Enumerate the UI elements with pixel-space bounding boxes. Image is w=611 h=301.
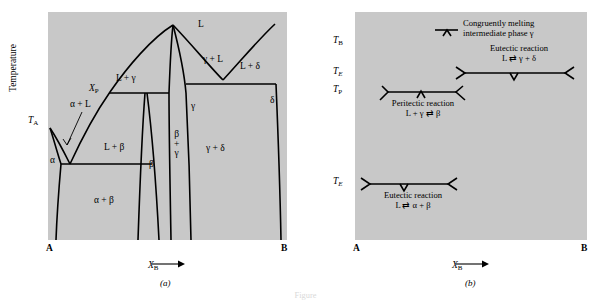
panel-b-temp-mark-TE-upper: TE (333, 67, 343, 78)
panel-a-x-axis-label: XB (148, 260, 158, 272)
panel-b-temp-mark-TP: TP (333, 85, 342, 96)
phase-label-alpha-L: α + L (70, 100, 91, 110)
beta-boundary-left (138, 93, 145, 240)
panel-a-comp-mark-XP: XP (89, 84, 99, 95)
panel-b-corner-B: B (581, 243, 587, 253)
delta-solvus (276, 84, 281, 240)
gamma-boundary-left (169, 93, 171, 240)
phase-label-gamma-delta: γ + δ (206, 144, 225, 154)
figure-caption-clipped: Figure (0, 291, 611, 301)
annotation-peritectic: Peritectic reaction L + γ ⇄ β (371, 98, 475, 119)
eutectic-lower-bracket-right (448, 178, 457, 190)
phase-diagram-panel-a: TA XP L α + L α α + β L + β β β+γ L + γ … (48, 12, 287, 240)
reaction-schematic-panel-b: TB TE TP TE Congruently melting intermed… (355, 12, 587, 240)
phase-label-L: L (198, 20, 204, 30)
panel-a-temp-mark-TA: TA (28, 116, 38, 127)
x-axis-arrow-icon (456, 260, 490, 268)
eutectic-lower-bracket-left (361, 178, 370, 190)
panel-b-x-axis-label: XB (452, 260, 462, 272)
panel-a-corner-B: B (281, 243, 287, 253)
annotation-congruent-melting: Congruently melting intermediate phase γ (463, 18, 534, 39)
x-axis-arrow-icon (152, 260, 186, 268)
phase-label-L-beta: L + β (104, 143, 124, 153)
phase-label-gamma: γ (191, 102, 195, 112)
panel-b-corner-A: A (353, 243, 360, 253)
panel-b-temp-mark-TE-lower: TE (333, 177, 343, 188)
eutectic-upper-bracket-right (565, 67, 574, 79)
gamma-solidus-left (169, 25, 173, 93)
panel-a-caption: (a) (160, 278, 171, 288)
gamma-solidus-right (173, 25, 186, 93)
gamma-boundary-right (186, 93, 191, 240)
panel-a-y-axis-label: Temperature (8, 78, 18, 92)
panel-b-caption: (b) (465, 278, 476, 288)
eutectic-upper-chevron-down (510, 73, 518, 80)
annotation-eutectic-upper: Eutectic reaction L ⇄ γ + δ (467, 43, 571, 64)
phase-label-beta: β (149, 160, 154, 170)
phase-label-delta: δ (270, 96, 274, 106)
annotation-eutectic-lower: Eutectic reaction L ⇄ α + β (361, 190, 465, 211)
eutectic-upper-bracket-left (456, 67, 465, 79)
phase-label-alpha: α (50, 156, 55, 166)
phase-label-alpha-beta: α + β (94, 196, 114, 206)
congruent-melting-chevron-up (443, 30, 451, 36)
panel-b-temp-mark-TB: TB (333, 36, 343, 47)
phase-label-L-gamma: L + γ (116, 74, 136, 84)
alpha-solvus-lower (56, 164, 61, 240)
alpha-plus-l-leader (67, 112, 82, 145)
liquidus-gamma-branch (173, 25, 223, 80)
phase-label-L-delta: L + δ (240, 62, 260, 72)
panel-a-corner-A: A (46, 243, 53, 253)
phase-label-gamma-L: γ + L (203, 55, 223, 65)
panel-a-curves (48, 12, 287, 240)
phase-label-beta-gamma: β+γ (174, 130, 179, 159)
